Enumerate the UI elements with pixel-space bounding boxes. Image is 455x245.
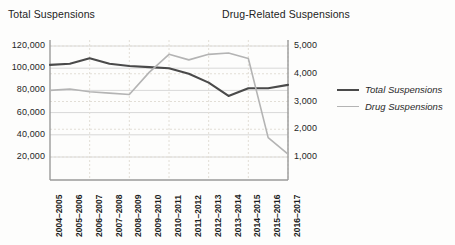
left-axis-tick-40000: 40,000 bbox=[17, 129, 45, 139]
left-axis-tick-120000: 120,000 bbox=[12, 40, 45, 50]
x-axis-tick-2007-2008: 2007–2008 bbox=[114, 194, 124, 237]
right-axis-tick-5000: 5,000 bbox=[294, 40, 317, 50]
x-axis-tick-2012-2013: 2012–2013 bbox=[213, 194, 223, 237]
chart-plot-area bbox=[0, 0, 455, 245]
x-axis-tick-2014-2015: 2014–2015 bbox=[252, 194, 262, 237]
x-axis-tick-2006-2007: 2006–2007 bbox=[94, 194, 104, 237]
left-axis-tick-20000: 20,000 bbox=[17, 151, 45, 161]
legend-label: Drug Suspensions bbox=[365, 101, 443, 112]
right-axis-tick-4000: 4,000 bbox=[294, 68, 317, 78]
left-axis-tick-100000: 100,000 bbox=[12, 62, 45, 72]
legend-line-swatch-icon bbox=[337, 106, 359, 107]
x-axis-tick-2013-2014: 2013–2014 bbox=[233, 194, 243, 237]
x-axis-tick-2005-2006: 2005–2006 bbox=[74, 194, 84, 237]
right-axis-tick-1000: 1,000 bbox=[294, 151, 317, 161]
legend-item-drug-suspensions[interactable]: Drug Suspensions bbox=[337, 101, 443, 112]
x-axis-tick-2008-2009: 2008–2009 bbox=[133, 194, 143, 237]
left-axis-tick-80000: 80,000 bbox=[17, 84, 45, 94]
right-axis-tick-3000: 3,000 bbox=[294, 96, 317, 106]
x-axis-tick-2016-2017: 2016–2017 bbox=[292, 194, 302, 237]
right-axis-tick-2000: 2,000 bbox=[294, 123, 317, 133]
x-axis-tick-2011-2012: 2011–2012 bbox=[193, 195, 203, 237]
left-axis-tick-60000: 60,000 bbox=[17, 107, 45, 117]
x-axis-tick-2015-2016: 2015–2016 bbox=[272, 194, 282, 237]
legend-line-swatch-icon bbox=[337, 89, 359, 91]
legend-item-total-suspensions[interactable]: Total Suspensions bbox=[337, 84, 442, 95]
x-axis-tick-2010-2011: 2010–2011 bbox=[173, 195, 183, 237]
x-axis-tick-2009-2010: 2009–2010 bbox=[153, 194, 163, 237]
x-axis-tick-2004-2005: 2004–2005 bbox=[54, 194, 64, 237]
legend-label: Total Suspensions bbox=[365, 84, 442, 95]
chart-container: Total Suspensions Drug-Related Suspensio… bbox=[0, 0, 455, 245]
